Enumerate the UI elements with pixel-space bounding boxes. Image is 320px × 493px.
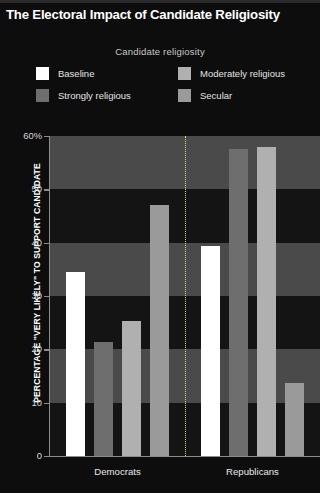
legend-row: Strongly religious Secular bbox=[36, 89, 320, 102]
legend-title: Candidate religiosity bbox=[0, 46, 320, 57]
legend-swatch-icon bbox=[36, 67, 49, 80]
y-axis-tick-label: 50 bbox=[0, 183, 42, 194]
legend-item-baseline[interactable]: Baseline bbox=[36, 67, 178, 80]
y-axis-tick-label: 60% bbox=[0, 130, 42, 141]
group-divider bbox=[185, 136, 186, 456]
y-axis-tick bbox=[44, 136, 49, 137]
chart-legend: Candidate religiosity Baseline Moderatel… bbox=[0, 46, 320, 111]
y-axis-tick-label: 0 bbox=[0, 450, 42, 461]
bar bbox=[229, 149, 248, 456]
y-axis-tick-label: 40 bbox=[0, 237, 42, 248]
page-title: The Electoral Impact of Candidate Religi… bbox=[6, 7, 314, 22]
x-axis-tick-label: Democrats bbox=[58, 466, 178, 477]
y-axis-tick bbox=[44, 349, 49, 350]
bar bbox=[66, 272, 85, 456]
bar bbox=[122, 321, 141, 456]
bar bbox=[257, 147, 276, 456]
y-axis-tick bbox=[44, 296, 49, 297]
chart-page: The Electoral Impact of Candidate Religi… bbox=[0, 0, 320, 493]
bar bbox=[94, 342, 113, 456]
y-axis-title: PERCENTAGE "VERY LIKELY" TO SUPPORT CAND… bbox=[32, 133, 42, 433]
legend-item-moderately-religious[interactable]: Moderately religious bbox=[178, 67, 320, 80]
header-rule bbox=[0, 0, 320, 3]
legend-item-label: Baseline bbox=[58, 68, 94, 79]
y-axis-tick bbox=[44, 403, 49, 404]
x-axis-tick-label: Republicans bbox=[193, 466, 313, 477]
legend-item-label: Secular bbox=[200, 90, 232, 101]
bar bbox=[201, 246, 220, 456]
legend-row: Baseline Moderately religious bbox=[36, 67, 320, 80]
legend-swatch-icon bbox=[178, 67, 191, 80]
legend-item-strongly-religious[interactable]: Strongly religious bbox=[36, 89, 178, 102]
y-axis-line bbox=[49, 136, 50, 456]
legend-swatch-icon bbox=[178, 89, 191, 102]
legend-item-label: Strongly religious bbox=[58, 90, 131, 101]
y-axis-tick-label: 30 bbox=[0, 290, 42, 301]
legend-item-secular[interactable]: Secular bbox=[178, 89, 320, 102]
y-axis-tick bbox=[44, 243, 49, 244]
bar bbox=[150, 205, 169, 456]
legend-item-label: Moderately religious bbox=[200, 68, 285, 79]
y-axis-tick-label: 10 bbox=[0, 397, 42, 408]
y-axis-tick bbox=[44, 456, 49, 457]
y-axis-tick-label: 20 bbox=[0, 343, 42, 354]
chart-area: PERCENTAGE "VERY LIKELY" TO SUPPORT CAND… bbox=[0, 130, 320, 493]
legend-swatch-icon bbox=[36, 89, 49, 102]
bar bbox=[285, 383, 304, 456]
y-axis-tick bbox=[44, 189, 49, 190]
legend-rows: Baseline Moderately religious Strongly r… bbox=[0, 67, 320, 102]
